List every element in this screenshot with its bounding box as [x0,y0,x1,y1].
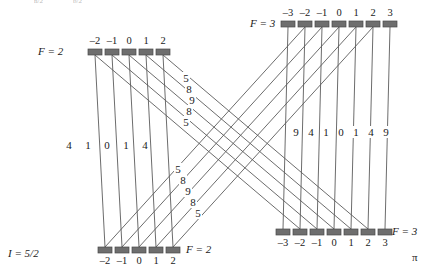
m-quantum-label: 3 [380,7,400,18]
transition-strength-label: 4 [65,139,73,151]
sublevel-bar [383,21,397,27]
transition-line [283,27,288,229]
m-quantum-label: 3 [375,237,395,248]
transition-strength-label: 4 [367,126,375,138]
transition-line [163,55,173,247]
transition-strength-label: 0 [337,126,345,138]
sublevel-bar [139,49,153,55]
sublevel-bar [361,229,375,235]
sublevel-bar [378,229,392,235]
m-quantum-label: 2 [163,255,183,266]
level-label-upper-right: F = 3 [250,17,275,29]
sublevel-bar [310,229,324,235]
level-label-lower-right: F = 3 [392,225,417,237]
sublevel-bar [122,49,136,55]
level-label-lower-left: F = 2 [186,243,211,255]
figure-canvas: n/2 b/2 –2–1012–3–2–10123–2–1012–3–2–101… [0,0,429,271]
sublevel-bar [298,21,312,27]
transition-line [112,55,122,247]
nuclear-spin-label: I = 5/2 [8,247,39,259]
transition-strength-label: 0 [103,139,111,151]
sublevel-bar [366,21,380,27]
sublevel-bar [281,21,295,27]
transition-strength-label: 1 [322,126,330,138]
transition-strength-label: 1 [122,139,130,151]
sublevel-bar [293,229,307,235]
transition-line [146,55,156,247]
sublevel-bar [166,247,180,253]
transition-strength-label: 4 [307,126,315,138]
transition-lines-svg [0,0,429,271]
transition-line [300,27,305,229]
sublevel-bar [98,247,112,253]
level-label-upper-left: F = 2 [38,45,63,57]
transition-strength-label: 5 [194,207,202,219]
transition-strength-label: 4 [141,139,149,151]
sublevel-bar [332,21,346,27]
sublevel-bar [115,247,129,253]
transition-strength-label: 9 [382,126,390,138]
transition-lines-group [95,27,390,247]
sublevel-bar [276,229,290,235]
sublevel-bar [327,229,341,235]
sublevel-bar [105,49,119,55]
transition-strength-label: 1 [352,126,360,138]
sublevel-bar [344,229,358,235]
sublevel-bar [88,49,102,55]
transition-strength-label: 9 [292,126,300,138]
transition-line [95,55,105,247]
sublevel-bar [132,247,146,253]
sublevel-bar [149,247,163,253]
transition-strength-label: 1 [84,139,92,151]
sublevel-bar [349,21,363,27]
transition-line [129,55,139,247]
sublevel-bar [315,21,329,27]
polarization-label: π [412,251,418,263]
sublevel-bar [156,49,170,55]
transition-strength-label: 5 [182,116,190,128]
m-quantum-label: 2 [153,35,173,46]
